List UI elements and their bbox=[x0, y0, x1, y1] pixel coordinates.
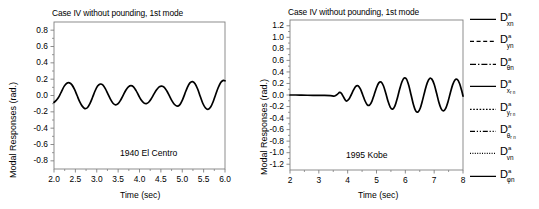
legend-item-label: Daθr n bbox=[500, 122, 520, 140]
y-tick-label: -0.6 bbox=[28, 139, 48, 149]
legend-item-label: Davn bbox=[500, 144, 518, 161]
legend-line-sample bbox=[470, 85, 496, 87]
y-tick-label: -0.4 bbox=[28, 123, 48, 133]
x-tick-label: 3 bbox=[305, 175, 333, 185]
legend-item[interactable]: Daxn bbox=[470, 10, 539, 31]
legend-line-sample bbox=[470, 18, 496, 20]
y-tick-label: 1.0 bbox=[265, 32, 284, 42]
y-tick-label: 1.2 bbox=[265, 20, 284, 30]
x-tick-label: 5 bbox=[363, 175, 391, 185]
y-tick-label: 0.8 bbox=[28, 25, 48, 35]
legend-item[interactable]: Dayn bbox=[470, 32, 539, 53]
legend-item-label: Daxr n bbox=[500, 77, 520, 95]
legend-item-label: Dayr n bbox=[500, 100, 520, 118]
y-tick-label: 0.6 bbox=[265, 55, 284, 65]
y-tick-label: -0.4 bbox=[265, 113, 284, 123]
x-tick-label: 6 bbox=[391, 175, 419, 185]
legend-line-sample bbox=[470, 152, 496, 154]
legend-item[interactable]: Daθn bbox=[470, 55, 539, 76]
y-tick-label: 0.2 bbox=[265, 78, 284, 88]
y-tick-label: 0.2 bbox=[28, 74, 48, 84]
legend-line-sample bbox=[470, 130, 496, 132]
legend-item-label: Daxn bbox=[500, 10, 518, 27]
legend-item[interactable]: Davn bbox=[470, 144, 539, 165]
y-tick-label: 0.0 bbox=[265, 90, 284, 100]
legend-item[interactable]: Daθr n bbox=[470, 122, 539, 143]
y-tick-label: 0.0 bbox=[28, 90, 48, 100]
legend-line-sample bbox=[470, 63, 496, 65]
x-tick-label: 7 bbox=[420, 175, 448, 185]
legend: DaxnDaynDaθnDaxr nDayr nDaθr nDavnDaφn bbox=[470, 10, 539, 200]
chart-panel-el-centro: Case IV without pounding, 1st mode Modal… bbox=[0, 0, 248, 209]
x-tick-label: 6.0 bbox=[211, 174, 239, 184]
legend-item[interactable]: Daxr n bbox=[470, 77, 539, 98]
y-tick-label: 0.4 bbox=[265, 67, 284, 77]
figure-container: Case IV without pounding, 1st mode Modal… bbox=[0, 0, 539, 209]
y-tick-label: -0.6 bbox=[265, 124, 284, 134]
legend-item[interactable]: Dayr n bbox=[470, 100, 539, 121]
x-tick-label: 2 bbox=[276, 175, 304, 185]
y-tick-label: 0.4 bbox=[28, 57, 48, 67]
legend-line-sample bbox=[470, 108, 496, 110]
legend-item-label: Dayn bbox=[500, 32, 518, 49]
y-tick-label: 0.6 bbox=[28, 41, 48, 51]
y-tick-label: -0.8 bbox=[265, 136, 284, 146]
y-tick-label: -0.2 bbox=[265, 101, 284, 111]
y-tick-label: -1.2 bbox=[265, 159, 284, 169]
legend-item[interactable]: Daφn bbox=[470, 167, 539, 188]
x-tick-label: 4 bbox=[334, 175, 362, 185]
legend-line-sample bbox=[470, 175, 496, 177]
y-tick-label: 0.8 bbox=[265, 43, 284, 53]
legend-line-sample bbox=[470, 40, 496, 42]
y-tick-label: -0.8 bbox=[28, 155, 48, 165]
legend-item-label: Daθn bbox=[500, 55, 518, 72]
y-tick-label: -0.2 bbox=[28, 106, 48, 116]
legend-item-label: Daφn bbox=[500, 167, 519, 184]
y-tick-label: -1.0 bbox=[265, 147, 284, 157]
